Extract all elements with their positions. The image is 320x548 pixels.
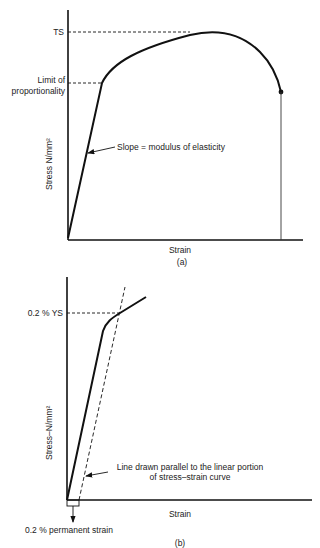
ys-label: 0.2 % YS [28, 308, 64, 318]
y-axis-label-a: Stress N/mm² [44, 138, 54, 190]
stress-strain-diagrams: TS Limit of proportionality Slope = modu… [0, 0, 320, 548]
offset-box [67, 500, 79, 506]
caption-b: (b) [175, 538, 186, 548]
parallel-label-line1: Line drawn parallel to the linear portio… [117, 462, 264, 472]
slope-arrow [88, 147, 115, 153]
y-axis-label-b: Stress–N/mm² [44, 406, 54, 460]
parallel-arrow [86, 472, 108, 476]
figure-a: TS Limit of proportionality Slope = modu… [12, 10, 303, 267]
slope-label: Slope = modulus of elasticity [117, 142, 226, 152]
limit-label-line2: proportionality [12, 86, 66, 96]
stress-strain-curve-a [68, 32, 281, 238]
figure-b: 0.2 % YS Line drawn parallel to the line… [25, 277, 312, 548]
permanent-strain-label: 0.2 % permanent strain [25, 525, 113, 535]
caption-a: (a) [177, 257, 188, 267]
limit-label-line1: Limit of [38, 75, 66, 85]
ts-label: TS [53, 27, 64, 37]
x-axis-label-b: Strain [169, 509, 191, 519]
parallel-label-line2: of stress–strain curve [150, 472, 231, 482]
x-axis-label-a: Strain [169, 245, 191, 255]
